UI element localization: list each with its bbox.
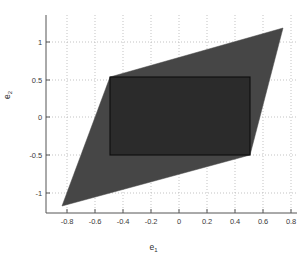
x-tick-label: 0 [177, 217, 181, 226]
x-tick-label: 0.4 [230, 217, 240, 226]
y-tick-label: 1 [24, 38, 42, 47]
x-tick-label: -0.8 [61, 217, 74, 226]
inner-rectangle-region [110, 77, 250, 155]
x-tick-label: 0.2 [202, 217, 212, 226]
y-tick-label: -0.5 [24, 151, 42, 160]
chart-figure: -0.8 -0.6 -0.4 -0.2 0 0.2 0.4 0.6 0.8 1 … [0, 0, 307, 257]
x-tick-label: -0.4 [117, 217, 130, 226]
y-tick-label: -1 [24, 189, 42, 198]
x-tick-label: 0.8 [286, 217, 296, 226]
x-axis-label: e1 [0, 242, 307, 253]
y-axis-label: e2 [2, 91, 13, 99]
y-tick-label: 0.5 [24, 76, 42, 85]
x-axis-label-subscript: 1 [154, 247, 157, 253]
x-tick-label: -0.2 [145, 217, 158, 226]
y-axis-label-base: e [2, 94, 12, 99]
x-tick-label: 0.6 [258, 217, 268, 226]
y-tick-label: 0 [24, 113, 42, 122]
x-tick-label: -0.6 [89, 217, 102, 226]
y-axis-label-subscript: 2 [7, 91, 13, 94]
